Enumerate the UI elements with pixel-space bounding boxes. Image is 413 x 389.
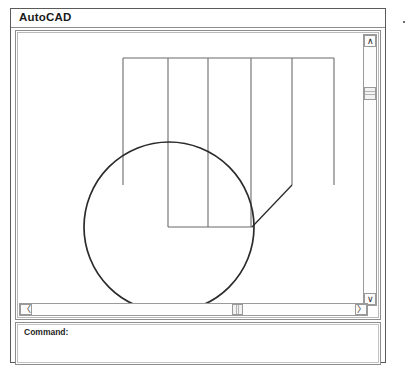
circle-entity	[84, 142, 254, 305]
chevron-right-icon: 〉	[357, 305, 366, 314]
drawing-document-inner: ∧ ∨ 〈 〉	[17, 32, 379, 318]
chevron-left-icon: 〈	[22, 305, 31, 314]
title-bar: AutoCAD	[11, 9, 385, 28]
application-title: AutoCAD	[11, 12, 72, 24]
diagonal-line	[252, 185, 292, 227]
drawing-document-window: ∧ ∨ 〈 〉	[15, 30, 381, 320]
command-history-area[interactable]: Command:	[17, 324, 379, 363]
scroll-left-button[interactable]: 〈	[20, 304, 32, 315]
vertical-scrollbar[interactable]: ∧ ∨	[363, 34, 377, 306]
horizontal-scrollbar[interactable]: 〈 〉	[19, 303, 368, 316]
vertical-scroll-thumb[interactable]	[364, 87, 376, 100]
stray-dot-mark	[403, 21, 405, 23]
application-frame: AutoCAD ∧ ∨	[10, 8, 386, 363]
scroll-right-button[interactable]: 〉	[355, 304, 367, 315]
command-prompt-text: Command:	[24, 327, 378, 337]
chevron-up-icon: ∧	[367, 37, 374, 46]
command-window[interactable]: Command:	[15, 322, 381, 365]
scroll-up-button[interactable]: ∧	[364, 35, 376, 47]
horizontal-scroll-thumb[interactable]	[232, 304, 243, 315]
drawing-canvas[interactable]	[20, 35, 364, 305]
drawing-geometry	[20, 35, 364, 305]
